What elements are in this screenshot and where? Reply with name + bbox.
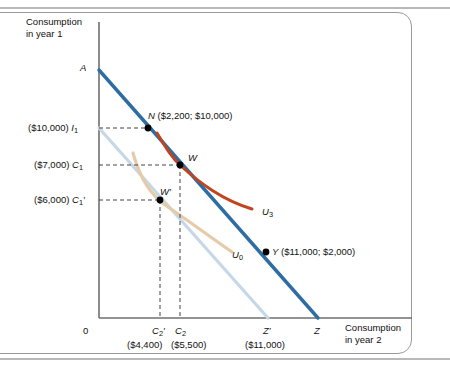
y-axis-title: Consumption in year 1 [26,16,82,39]
y-label-c1prime-sub: 1 [79,198,83,207]
curve-label-u0-sub: 0 [239,253,243,262]
y-label-i1: ($10,000) I1 [28,122,78,134]
y-label-c1-sub: 1 [79,163,83,172]
x-label-zprime: Z′ [263,325,271,337]
point-Wprime [157,197,164,204]
x-label-c2-sub: 2 [182,329,186,338]
x-label-c2: C2 [175,325,186,337]
x-axis-title-line1: Consumption [345,322,401,334]
x-label-c2prime-prime: ′ [163,325,165,336]
y-label-c1-symbol: C [72,159,79,170]
y-label-c1-money: ($7,000) [34,159,69,170]
point-label-A: A [80,62,86,74]
curve-label-u3-symbol: U [262,206,269,217]
y-label-i1-sub: 1 [74,126,78,135]
point-label-W: W [188,152,197,164]
x-label-zprime-money: ($11,000) [245,339,285,351]
x-label-c2prime-money: ($4,400) [127,339,162,351]
y-label-c1prime-symbol: C [72,194,79,205]
x-label-c2prime-sub: 2 [159,329,163,338]
point-label-N: N ($2,200; $10,000) [148,110,233,122]
curve-label-u0-symbol: U [232,249,239,260]
origin-label: 0 [83,325,88,337]
point-W [177,162,184,169]
point-Y [263,249,270,256]
point-N [145,125,152,132]
curve-label-u3-sub: 3 [269,210,273,219]
x-label-c2prime-symbol: C [152,325,159,336]
x-label-c2prime: C2′ [152,325,165,337]
point-label-N-note: ($2,200; $10,000) [158,110,233,121]
point-label-Y-symbol: Y [272,246,278,257]
x-label-c2-money: ($5,500) [171,339,206,351]
point-label-Y: Y ($11,000; $2,000) [272,246,355,258]
y-axis-title-line2: in year 1 [26,28,82,40]
x-axis-title: Consumption in year 2 [345,322,401,345]
curve-label-u3: U3 [262,206,273,218]
plot-canvas [0,0,450,368]
budget-line-new [99,70,318,318]
y-label-c1prime: ($6,000) C1′ [34,194,85,206]
y-label-i1-money: ($10,000) [28,122,69,133]
y-label-c1prime-money: ($6,000) [34,194,69,205]
point-label-N-symbol: N [148,110,155,121]
indifference-curve-u3 [157,133,252,209]
x-axis-title-line2: in year 2 [345,334,401,346]
y-axis-title-line1: Consumption [26,16,82,28]
point-label-Wprime: W′ [160,186,171,198]
x-label-zprime-prime: ′ [269,325,271,336]
figure-root: Consumption in year 1 Consumption in yea… [0,0,450,368]
budget-line-original [99,128,268,318]
y-label-c1prime-prime: ′ [83,194,85,205]
curve-label-u0: U0 [232,249,243,261]
y-label-c1: ($7,000) C1 [34,159,83,171]
point-label-Y-note: ($11,000; $2,000) [281,246,355,257]
x-label-c2-symbol: C [175,325,182,336]
x-label-z: Z [314,325,320,337]
